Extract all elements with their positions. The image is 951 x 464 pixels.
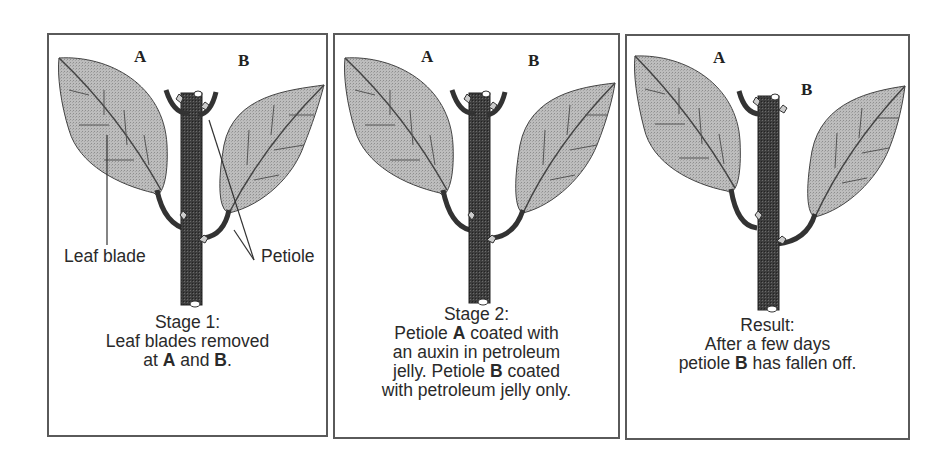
- caption-line: After a few days: [627, 335, 908, 354]
- stage-2-caption: Stage 2: Petiole A coated with an auxin …: [335, 305, 618, 400]
- plant-illustration-stage-1: [49, 35, 330, 439]
- stage-1-caption: Stage 1: Leaf blades removed at A and B.: [49, 313, 326, 370]
- stem: [181, 93, 202, 305]
- caption-line: Result:: [627, 316, 908, 335]
- caption-line: petiole B has fallen off.: [627, 354, 908, 373]
- stem: [758, 96, 779, 310]
- label-b: B: [801, 80, 812, 100]
- caption-line: with petroleum jelly only.: [335, 381, 618, 400]
- panel-result: A B Result: After a few days petiole B h…: [625, 34, 910, 440]
- result-caption: Result: After a few days petiole B has f…: [627, 316, 908, 373]
- petiole-label: Petiole: [261, 246, 315, 267]
- caption-line: at A and B.: [49, 351, 326, 370]
- caption-line: Leaf blades removed: [49, 332, 326, 351]
- right-leaf-blade: [516, 83, 615, 213]
- caption-line: Petiole A coated with: [335, 324, 618, 343]
- label-b: B: [238, 51, 249, 71]
- plant-illustration-result: [627, 36, 912, 442]
- leaf-blade-label: Leaf blade: [64, 246, 146, 267]
- caption-line: an auxin in petroleum: [335, 343, 618, 362]
- right-leaf-blade: [220, 85, 324, 213]
- label-a: A: [134, 47, 146, 67]
- label-b: B: [528, 51, 539, 71]
- caption-line: jelly. Petiole B coated: [335, 362, 618, 381]
- caption-line: Stage 2:: [335, 305, 618, 324]
- stem: [469, 93, 490, 303]
- label-a: A: [421, 47, 433, 67]
- panel-stage-1: A B Leaf blade Petiole Stage 1: Leaf bla…: [47, 33, 328, 437]
- caption-line: Stage 1:: [49, 313, 326, 332]
- label-a: A: [713, 48, 725, 68]
- right-leaf-blade: [808, 86, 905, 217]
- panel-stage-2: A B Stage 2: Petiole A coated with an au…: [333, 33, 620, 439]
